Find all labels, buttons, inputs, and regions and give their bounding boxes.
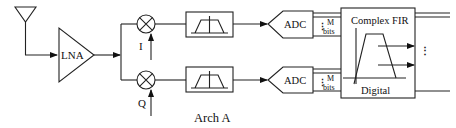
adc-top: ADC — [268, 11, 313, 38]
complex-fir-block: Complex FIR Digital — [341, 8, 415, 98]
q-label: Q — [138, 97, 146, 109]
output-dots: ⋮ — [420, 45, 430, 56]
antenna-icon — [15, 7, 57, 55]
adc-bottom: ADC — [268, 67, 313, 93]
lna-amplifier: LNA — [59, 28, 94, 82]
mixer-q: Q — [137, 71, 155, 116]
bandpass-filter-top — [186, 12, 233, 37]
lna-label: LNA — [61, 49, 84, 61]
adc-bottom-label: ADC — [284, 75, 306, 86]
fir-title: Complex FIR — [351, 15, 408, 26]
fir-outputs: ⋮ — [415, 13, 450, 91]
m-label: M — [327, 74, 334, 83]
m-label: M — [327, 18, 334, 27]
bit-bus-bottom: ⋮ M bits — [313, 69, 341, 92]
bandpass-filter-bottom — [186, 67, 233, 92]
fir-subtitle: Digital — [361, 85, 390, 96]
bits-label: bits — [323, 83, 335, 92]
i-label: I — [139, 40, 143, 52]
bit-bus-top: ⋮ M bits — [313, 13, 341, 36]
architecture-diagram: LNA I Q ADC ADC ⋮ — [0, 0, 456, 128]
bits-label: bits — [323, 27, 335, 36]
diagram-caption: Arch A — [194, 111, 230, 125]
mixer-i: I — [137, 15, 155, 60]
adc-top-label: ADC — [284, 19, 306, 30]
